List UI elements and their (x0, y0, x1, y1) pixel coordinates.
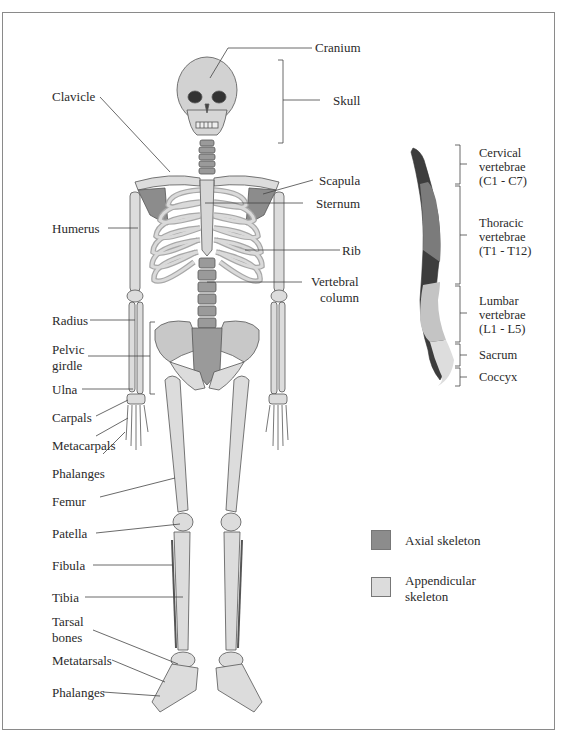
label-thoracic-2: vertebrae (479, 230, 526, 244)
legend-label-axial: Axial skeleton (405, 533, 480, 548)
label-coccyx: Coccyx (479, 370, 517, 384)
label-cervical-3: (C1 - C7) (479, 174, 527, 188)
legend-swatch-appendicular (371, 577, 391, 597)
label-metatarsals: Metatarsals (52, 653, 112, 668)
label-vertebral-1: Vertebral (311, 274, 359, 289)
label-sacrum: Sacrum (479, 348, 517, 362)
label-patella: Patella (52, 526, 87, 541)
label-skull: Skull (333, 93, 360, 108)
label-pelvic-girdle-2: girdle (52, 358, 82, 373)
legend-label-appendicular-2: skeleton (405, 589, 448, 604)
label-lumbar-1: Lumbar (479, 294, 519, 308)
label-ulna: Ulna (52, 382, 77, 397)
label-scapula: Scapula (319, 173, 360, 188)
label-lumbar-3: (L1 - L5) (479, 322, 526, 336)
label-pelvic-girdle-1: Pelvic (52, 342, 85, 357)
label-phalanges-hand: Phalanges (52, 466, 105, 481)
label-phalanges-foot: Phalanges (52, 685, 105, 700)
label-metacarpals: Metacarpals (52, 438, 116, 453)
label-cranium: Cranium (315, 40, 361, 55)
label-rib: Rib (342, 243, 361, 258)
label-sternum: Sternum (316, 196, 360, 211)
label-cervical-1: Cervical (479, 146, 521, 160)
legend-label-appendicular-1: Appendicular (405, 573, 476, 588)
label-thoracic-3: (T1 - T12) (479, 244, 532, 258)
label-tarsal-1: Tarsal (52, 614, 84, 629)
legend-swatch-axial (371, 530, 391, 550)
label-lumbar-2: vertebrae (479, 308, 526, 322)
label-cervical-2: vertebrae (479, 160, 526, 174)
label-fibula: Fibula (52, 558, 85, 573)
label-clavicle: Clavicle (52, 89, 95, 104)
skull-icon (177, 57, 237, 135)
spine-inset-art (411, 145, 467, 386)
label-tibia: Tibia (52, 590, 79, 605)
label-carpals: Carpals (52, 410, 92, 425)
label-femur: Femur (52, 494, 86, 509)
label-vertebral-2: column (320, 290, 359, 305)
label-humerus: Humerus (52, 221, 100, 236)
label-radius: Radius (52, 313, 88, 328)
label-tarsal-2: bones (52, 630, 82, 645)
label-thoracic-1: Thoracic (479, 216, 523, 230)
